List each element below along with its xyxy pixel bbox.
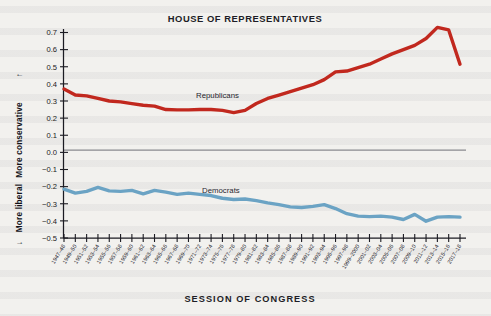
- y-axis-arrow-up: ↑: [15, 73, 24, 77]
- y-tick-label: −0.3: [42, 200, 57, 209]
- chart-figure: HOUSE OF REPRESENTATIVES More conservati…: [0, 0, 491, 316]
- y-tick-label: 0.6: [46, 45, 57, 54]
- y-tick-label: 0.4: [46, 80, 57, 89]
- y-tick-label: 0.7: [46, 28, 57, 37]
- y-tick-label: 0.0: [46, 148, 57, 157]
- chart-title: HOUSE OF REPRESENTATIVES: [168, 13, 323, 24]
- y-tick-label: 0.5: [46, 63, 57, 72]
- y-axis-label-liberal: More liberal: [15, 184, 24, 232]
- y-tick-label: −0.5: [42, 234, 57, 243]
- republicans-line: [64, 27, 460, 112]
- x-tick-label-group: 1947–481949–501951–521953–541955–561957–…: [50, 243, 462, 270]
- y-tick-label-group: 0.70.60.50.40.30.20.10.0−0.1−0.2−0.3−0.4…: [42, 28, 57, 243]
- y-axis-label-conservative: More conservative: [15, 102, 24, 178]
- y-axis-arrow-down: ↓: [15, 241, 24, 245]
- democrats-series-label: Democrats: [202, 186, 240, 195]
- x-axis-title: SESSION OF CONGRESS: [184, 294, 315, 304]
- y-tick-label: 0.1: [46, 131, 57, 140]
- republicans-series-label: Republicans: [196, 91, 239, 100]
- y-tick-label: 0.3: [46, 97, 57, 106]
- y-tick-label: 0.2: [46, 114, 57, 123]
- democrats-line: [64, 187, 460, 221]
- y-tick-label: −0.1: [42, 165, 57, 174]
- line-chart-svg: HOUSE OF REPRESENTATIVES More conservati…: [0, 0, 491, 316]
- y-axis-label-group: More conservative More liberal ↑ ↓: [15, 73, 24, 245]
- y-tick-label: −0.4: [42, 217, 57, 226]
- y-tick-label: −0.2: [42, 182, 57, 191]
